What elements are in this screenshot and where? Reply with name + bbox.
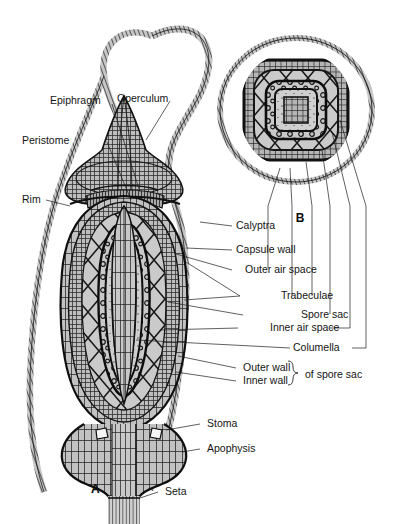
label-spore-sac: Spore sac bbox=[301, 308, 348, 320]
stoma-right bbox=[150, 428, 162, 439]
panel-b-label: B bbox=[296, 211, 305, 225]
seta-strands bbox=[108, 496, 140, 524]
label-outer-wall: Outer wall bbox=[243, 361, 290, 373]
label-inner-wall: Inner wall bbox=[243, 374, 288, 386]
label-epiphragm: Epiphragm bbox=[50, 94, 101, 106]
label-apophysis: Apophysis bbox=[207, 442, 255, 454]
figure-canvas: A B bbox=[0, 0, 396, 524]
stoma-left bbox=[96, 428, 108, 439]
label-peristome: Peristome bbox=[22, 134, 69, 146]
b-section-contents bbox=[244, 60, 348, 160]
label-of-spore-sac: of spore sac bbox=[305, 368, 362, 380]
label-capsule-wall: Capsule wall bbox=[236, 243, 296, 255]
label-operculum: Operculum bbox=[117, 92, 169, 104]
label-outer-air-space: Outer air space bbox=[245, 263, 317, 275]
seta-structure bbox=[108, 496, 140, 524]
capsule-body bbox=[61, 196, 188, 430]
panel-a-label: A bbox=[91, 482, 100, 496]
label-inner-air-space: Inner air space bbox=[270, 321, 340, 333]
label-stoma: Stoma bbox=[207, 417, 238, 429]
label-columella: Columella bbox=[293, 341, 340, 353]
label-rim: Rim bbox=[22, 193, 41, 205]
label-seta: Seta bbox=[165, 485, 187, 497]
label-calyptra: Calyptra bbox=[236, 219, 275, 231]
moss-capsule-figure: A B bbox=[0, 0, 396, 524]
b-columella bbox=[284, 97, 308, 123]
label-trabeculae: Trabeculae bbox=[281, 289, 333, 301]
